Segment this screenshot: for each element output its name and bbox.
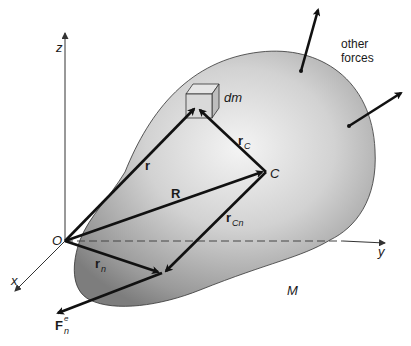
vector-R-label: R <box>171 186 181 201</box>
force-application-point-2 <box>347 124 351 128</box>
svg-text:F: F <box>55 318 63 333</box>
origin-label: O <box>52 233 62 248</box>
mass-M-label: M <box>287 283 298 298</box>
other-forces-label-line2: forces <box>341 51 374 65</box>
svg-text:r: r <box>95 256 100 271</box>
other-forces-label-line1: other <box>341 37 368 51</box>
svg-text:r: r <box>238 133 243 148</box>
x-axis-label: x <box>10 273 18 288</box>
svg-text:r: r <box>226 210 231 225</box>
center-of-mass-label: C <box>270 166 280 181</box>
svg-text:n: n <box>101 264 106 274</box>
z-axis-label: z <box>55 40 63 55</box>
x-axis <box>15 241 65 291</box>
svg-text:Cn: Cn <box>232 218 244 228</box>
svg-text:C: C <box>244 141 251 151</box>
y-axis <box>343 241 385 243</box>
diagram-canvas: z y x O dm C M r R r C r Cn r n F n e ot… <box>0 0 411 346</box>
vector-r-label: r <box>145 158 150 173</box>
force-F-n-e-label: F n e <box>55 314 69 336</box>
force-application-point-1 <box>299 69 303 73</box>
dm-label: dm <box>224 90 242 105</box>
y-axis-label: y <box>377 244 386 259</box>
svg-text:n: n <box>64 326 69 336</box>
svg-text:e: e <box>64 314 69 323</box>
